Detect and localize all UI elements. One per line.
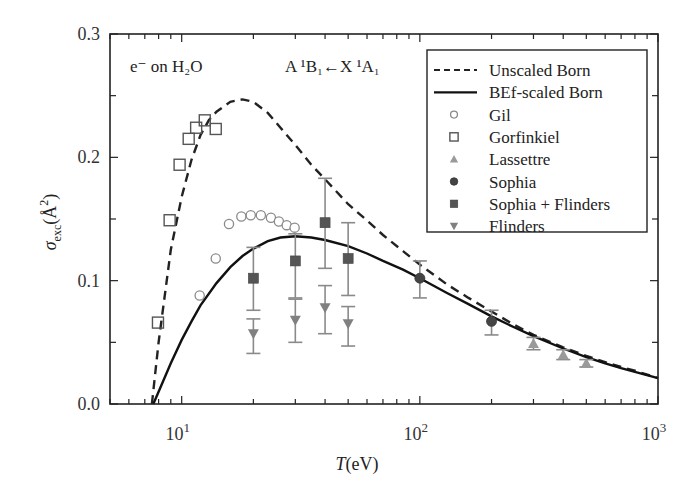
y-axis-label: σexc(Å2) bbox=[37, 194, 64, 251]
legend-label: Sophia + Flinders bbox=[489, 195, 610, 214]
gil-marker bbox=[195, 291, 204, 300]
gil-marker bbox=[246, 211, 255, 220]
legend-label: Gorfinkiel bbox=[489, 128, 560, 147]
legend-label: Flinders bbox=[489, 217, 545, 236]
y-tick-label: 0.2 bbox=[78, 147, 101, 167]
x-axis-label: T(eV) bbox=[336, 454, 379, 475]
legend-label: BEf-scaled Born bbox=[489, 83, 603, 102]
flinders-marker bbox=[343, 319, 354, 329]
projectile-annotation: e⁻ on H₂O bbox=[130, 57, 203, 76]
lassettre-marker bbox=[528, 338, 539, 348]
legend-label: Sophia bbox=[489, 173, 537, 192]
gorfinkiel-marker bbox=[210, 123, 221, 134]
legend-label: Unscaled Born bbox=[489, 61, 591, 80]
x-tick-label: 101 bbox=[165, 420, 190, 444]
gorfinkiel-marker bbox=[174, 159, 185, 170]
cross-section-chart: 101102103 0.00.10.20.3 e⁻ on H₂O A ¹B₁←X… bbox=[0, 0, 686, 494]
sophia-flinders-marker bbox=[290, 256, 300, 266]
x-tick-label: 102 bbox=[404, 420, 429, 444]
gil-marker bbox=[224, 219, 233, 228]
filled-circle-icon bbox=[450, 178, 458, 186]
gorfinkiel-marker bbox=[164, 215, 175, 226]
legend-label: Gil bbox=[489, 106, 511, 125]
gil-marker bbox=[256, 211, 265, 220]
gorfinkiel-marker bbox=[183, 133, 194, 144]
gil-marker bbox=[290, 223, 299, 232]
sophia-flinders-marker bbox=[343, 253, 353, 263]
open-circle-icon bbox=[451, 111, 458, 118]
legend-label: Lassettre bbox=[489, 150, 550, 169]
y-tick-label: 0.0 bbox=[78, 394, 101, 414]
sophia-marker bbox=[487, 316, 497, 326]
legend: Unscaled BornBEf-scaled BornGilGorfinkie… bbox=[427, 50, 647, 236]
gil-marker bbox=[237, 212, 246, 221]
flinders-marker bbox=[290, 316, 301, 326]
y-tick-label: 0.1 bbox=[78, 271, 101, 291]
x-tick-label: 103 bbox=[642, 420, 667, 444]
gil-marker bbox=[211, 254, 220, 263]
y-tick-label: 0.3 bbox=[78, 24, 101, 44]
filled-square-icon bbox=[450, 200, 458, 208]
sophia-marker bbox=[415, 273, 425, 283]
sophia-flinders-marker bbox=[248, 273, 258, 283]
transition-annotation: A ¹B₁←X ¹A₁ bbox=[285, 57, 380, 76]
gorfinkiel-marker bbox=[191, 122, 202, 133]
sophia-flinders-marker bbox=[320, 218, 330, 228]
bef-scaled-born-curve bbox=[153, 236, 658, 404]
flinders-marker bbox=[248, 329, 259, 339]
flinders-marker bbox=[320, 303, 331, 313]
svg-text:σexc(Å2): σexc(Å2) bbox=[37, 194, 64, 251]
